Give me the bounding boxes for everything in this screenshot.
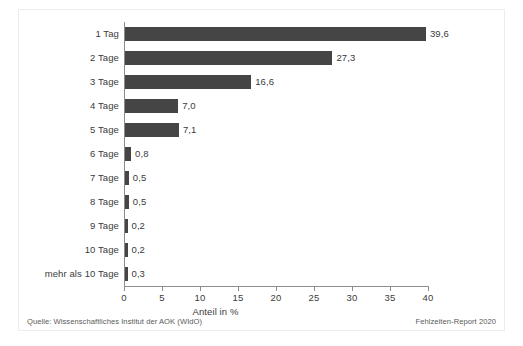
x-tick: [162, 287, 163, 291]
category-label: 4 Tage: [90, 94, 119, 118]
bar[interactable]: [125, 267, 128, 281]
category-label: 1 Tag: [95, 22, 119, 46]
bar-row: 5 Tage7,1: [0, 118, 523, 142]
bar-track: 27,3: [125, 46, 523, 70]
bar-value-label: 7,0: [182, 94, 196, 118]
category-label: 3 Tage: [90, 70, 119, 94]
bar-row: 8 Tage0,5: [0, 190, 523, 214]
bar-value-label: 16,6: [255, 70, 274, 94]
x-tick: [238, 287, 239, 291]
bar-row: 7 Tage0,5: [0, 166, 523, 190]
source-note: Quelle: Wissenschaftliches Institut der …: [27, 317, 202, 326]
report-note: Fehlzeiten-Report 2020: [416, 317, 496, 326]
x-tick-label: 15: [233, 292, 244, 303]
bar-track: 7,0: [125, 94, 523, 118]
bar[interactable]: [125, 123, 179, 137]
bar-value-label: 0,5: [133, 190, 147, 214]
bar[interactable]: [125, 243, 128, 257]
bar[interactable]: [125, 171, 129, 185]
bar-track: 0,2: [125, 238, 523, 262]
x-tick: [428, 287, 429, 291]
bar[interactable]: [125, 147, 131, 161]
x-tick: [352, 287, 353, 291]
bar-chart-plot: 1 Tag39,62 Tage27,33 Tage16,64 Tage7,05 …: [0, 0, 523, 346]
bar[interactable]: [125, 99, 178, 113]
x-tick: [390, 287, 391, 291]
category-label: mehr als 10 Tage: [45, 262, 119, 286]
x-tick: [124, 287, 125, 291]
bar-value-label: 0,3: [132, 262, 146, 286]
bar[interactable]: [125, 75, 251, 89]
bar-value-label: 27,3: [336, 46, 355, 70]
bar-row: 10 Tage0,2: [0, 238, 523, 262]
bar-track: 0,5: [125, 166, 523, 190]
bar[interactable]: [125, 27, 426, 41]
x-tick-label: 25: [309, 292, 320, 303]
bar-track: 0,2: [125, 214, 523, 238]
bar[interactable]: [125, 219, 128, 233]
bar-row: 1 Tag39,6: [0, 22, 523, 46]
bar[interactable]: [125, 51, 332, 65]
x-axis-title-text: Anteil in %: [193, 306, 239, 317]
category-label: 5 Tage: [90, 118, 119, 142]
category-label: 7 Tage: [90, 166, 119, 190]
bar-value-label: 0,2: [132, 214, 146, 238]
category-label: 9 Tage: [90, 214, 119, 238]
category-label: 8 Tage: [90, 190, 119, 214]
bar-row: 9 Tage0,2: [0, 214, 523, 238]
x-tick-label: 20: [271, 292, 282, 303]
bar-track: 7,1: [125, 118, 523, 142]
x-tick-label: 30: [347, 292, 358, 303]
bar-row: 2 Tage27,3: [0, 46, 523, 70]
bar-value-label: 0,8: [135, 142, 149, 166]
x-tick: [314, 287, 315, 291]
x-tick: [276, 287, 277, 291]
bar-track: 0,5: [125, 190, 523, 214]
x-tick-label: 35: [385, 292, 396, 303]
bar-row: 3 Tage16,6: [0, 70, 523, 94]
bar-value-label: 0,5: [133, 166, 147, 190]
bar-rows: 1 Tag39,62 Tage27,33 Tage16,64 Tage7,05 …: [0, 22, 523, 286]
x-axis-title: Anteil in %: [0, 306, 523, 317]
bar-track: 16,6: [125, 70, 523, 94]
category-label: 2 Tage: [90, 46, 119, 70]
category-label: 10 Tage: [85, 238, 119, 262]
bar-value-label: 7,1: [183, 118, 197, 142]
bar-track: 0,3: [125, 262, 523, 286]
x-tick-label: 5: [159, 292, 164, 303]
x-tick-label: 40: [423, 292, 434, 303]
x-tick-label: 0: [121, 292, 126, 303]
bar-row: 4 Tage7,0: [0, 94, 523, 118]
bar-row: 6 Tage0,8: [0, 142, 523, 166]
bar-value-label: 0,2: [132, 238, 146, 262]
bar[interactable]: [125, 195, 129, 209]
bar-value-label: 39,6: [430, 22, 449, 46]
bar-row: mehr als 10 Tage0,3: [0, 262, 523, 286]
bar-track: 0,8: [125, 142, 523, 166]
category-label: 6 Tage: [90, 142, 119, 166]
x-tick: [200, 287, 201, 291]
bar-track: 39,6: [125, 22, 523, 46]
x-tick-label: 10: [195, 292, 206, 303]
figure: 1 Tag39,62 Tage27,33 Tage16,64 Tage7,05 …: [0, 0, 523, 346]
